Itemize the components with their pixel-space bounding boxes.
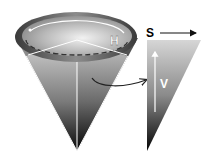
- hue-label: H: [110, 34, 119, 48]
- hsv-diagram: H V S: [0, 0, 212, 159]
- value-label: V: [160, 77, 168, 91]
- cone-top-hue-disc: [15, 12, 137, 62]
- saturation-label: S: [146, 26, 154, 40]
